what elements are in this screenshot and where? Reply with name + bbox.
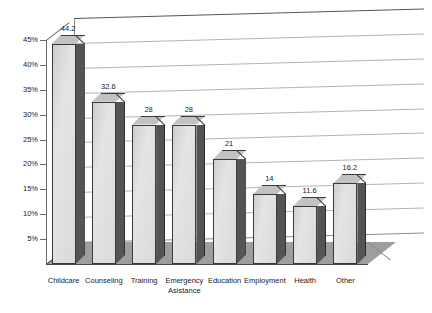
bar (253, 194, 277, 264)
x-axis-label: Other (316, 276, 374, 286)
bar (213, 159, 237, 264)
bar-top-edge (141, 116, 165, 117)
y-tick-15 (40, 189, 46, 190)
y-tick-label-wrap: 10% (0, 210, 38, 218)
bar-side-face (317, 206, 326, 264)
y-tick-label-wrap: 45% (0, 36, 38, 44)
bar-top-edge (302, 197, 326, 198)
bar-front-face (213, 159, 237, 264)
bar-front-face (333, 183, 357, 264)
y-tick-label: 40% (4, 61, 38, 69)
bar-top-edge (61, 35, 85, 36)
bar (52, 44, 76, 264)
y-tick-label: 10% (4, 210, 38, 218)
bar-side-face (196, 125, 205, 264)
y-tick-40 (40, 65, 46, 66)
bar-front-face (52, 44, 76, 264)
y-tick-label-wrap: 5% (0, 235, 38, 243)
bar-front-face (172, 125, 196, 264)
bar-side-face (357, 183, 366, 264)
floor-back-edge (74, 233, 424, 243)
y-tick-label: 5% (4, 235, 38, 243)
gridline-10 (74, 183, 424, 193)
y-tick-label-wrap: 30% (0, 111, 38, 119)
bar-value-label: 28 (169, 105, 209, 114)
y-tick-label-wrap: 15% (0, 185, 38, 193)
bar-side-face (76, 44, 85, 264)
bar-side-face (237, 159, 246, 264)
bar-value-label: 14 (249, 174, 289, 183)
bar (293, 206, 317, 264)
bar-value-label: 11.6 (290, 186, 330, 195)
y-tick-label-wrap: 35% (0, 86, 38, 94)
bar-value-label: 16.2 (330, 163, 370, 172)
bar-front-face (253, 194, 277, 264)
y-tick-10 (40, 214, 46, 215)
floor-front-edge (46, 264, 368, 265)
bar-chart: 5%10%15%20%25%30%35%40%45% 44.232.628282… (0, 0, 432, 313)
gridline-15 (74, 158, 424, 168)
y-tick-label: 20% (4, 160, 38, 168)
bar (92, 102, 116, 264)
gridline-40 (74, 33, 424, 43)
bar-side-face (116, 102, 125, 264)
gridline-45 (74, 9, 424, 19)
y-tick-30 (40, 115, 46, 116)
bar-value-label: 28 (129, 105, 169, 114)
y-tick-label-wrap: 40% (0, 61, 38, 69)
gridline-5 (74, 208, 424, 218)
bar-top-edge (222, 150, 246, 151)
bar-top-edge (181, 116, 205, 117)
gridline-35 (74, 58, 424, 68)
plot-area: 5%10%15%20%25%30%35%40%45% 44.232.628282… (0, 0, 432, 313)
bar-value-label: 32.6 (88, 82, 128, 91)
bar-front-face (293, 206, 317, 264)
y-axis-line (46, 40, 47, 264)
bar (172, 125, 196, 264)
bar-value-label: 21 (209, 139, 249, 148)
bar-value-label: 44.2 (48, 24, 88, 33)
bar-side-face (277, 194, 286, 264)
bar-front-face (92, 102, 116, 264)
bar-top-edge (262, 185, 286, 186)
y-tick-label-wrap: 25% (0, 136, 38, 144)
y-tick-45 (40, 40, 46, 41)
bar (333, 183, 357, 264)
y-tick-35 (40, 90, 46, 91)
y-tick-label-wrap: 20% (0, 160, 38, 168)
bar-front-face (132, 125, 156, 264)
y-tick-label: 25% (4, 136, 38, 144)
y-tick-label: 30% (4, 111, 38, 119)
y-tick-25 (40, 140, 46, 141)
bar-top-edge (101, 93, 125, 94)
y-tick-20 (40, 164, 46, 165)
gridline-25 (74, 108, 424, 118)
y-tick-label: 45% (4, 36, 38, 44)
y-tick-5 (40, 239, 46, 240)
y-tick-label: 15% (4, 185, 38, 193)
bar-side-face (156, 125, 165, 264)
bar-top-edge (342, 174, 366, 175)
bar (132, 125, 156, 264)
y-tick-label: 35% (4, 86, 38, 94)
